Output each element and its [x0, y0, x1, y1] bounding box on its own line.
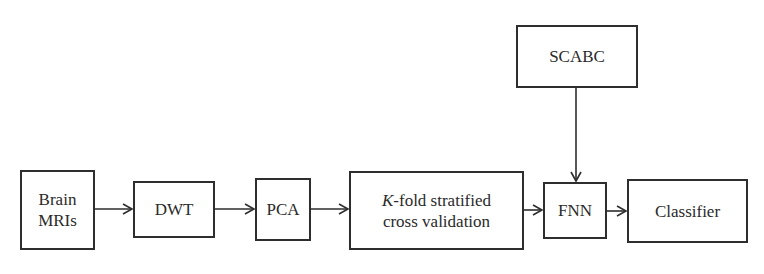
node-label-line2: cross validation [383, 211, 490, 232]
node-pca: PCA [255, 178, 311, 241]
node-label-line2: MRIs [38, 210, 77, 231]
node-label-line1: Brain [39, 189, 77, 210]
node-kfold-cross-validation: K-fold stratified cross validation [349, 171, 524, 250]
node-brain-mris: Brain MRIs [20, 170, 95, 250]
node-fnn: FNN [543, 182, 607, 239]
node-classifier: Classifier [627, 179, 748, 243]
node-scabc: SCABC [516, 25, 638, 88]
node-label: FNN [558, 200, 592, 221]
node-label: Classifier [655, 201, 720, 222]
node-dwt: DWT [133, 181, 215, 238]
node-label-line1: K-fold stratified [382, 190, 491, 211]
node-label: PCA [266, 199, 299, 220]
node-label-line1-rest: -fold stratified [393, 191, 491, 210]
k-variable: K [382, 191, 393, 210]
node-label: DWT [155, 199, 194, 220]
node-label: SCABC [549, 46, 605, 67]
